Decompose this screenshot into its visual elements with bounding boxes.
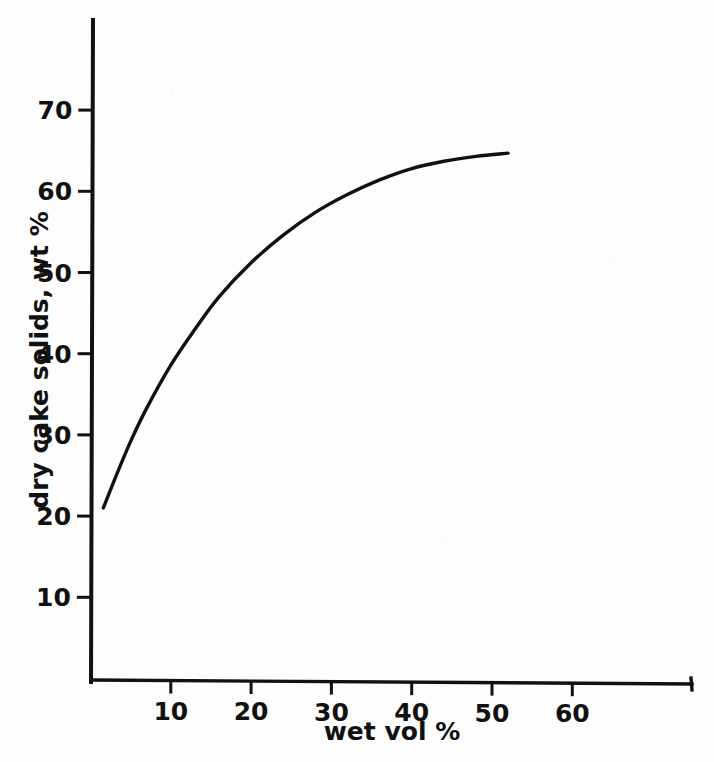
x-axis-end-cap [691, 678, 692, 690]
x-tick-label-60: 60 [555, 699, 590, 728]
figure-container: 10203040506070 102030405060 wet vol % dr… [0, 0, 714, 762]
data-curve-dry-cake-solids [103, 153, 508, 508]
x-tick-label-10: 10 [153, 697, 188, 726]
x-tick-label-20: 20 [234, 697, 269, 726]
x-axis-title: wet vol % [324, 717, 461, 746]
y-axis-title: dry cake solids, wt % [25, 211, 54, 509]
x-tick-label-50: 50 [475, 699, 510, 728]
chart-canvas: 10203040506070 102030405060 wet vol % dr… [0, 0, 714, 762]
x-axis-line [91, 680, 692, 684]
y-tick-label-10: 10 [36, 583, 71, 612]
y-tick-label-70: 70 [38, 96, 73, 125]
y-tick-label-60: 60 [37, 177, 72, 206]
y-axis-line [91, 20, 93, 682]
